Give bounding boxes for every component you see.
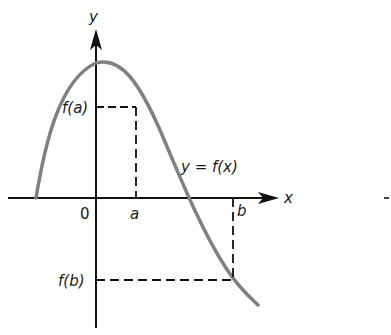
b-label: b (237, 202, 247, 220)
function-graph: y x 0 a b f(a) f(b) y = f(x) (0, 0, 391, 335)
origin-label: 0 (80, 205, 90, 223)
y-axis-label: y (88, 8, 99, 26)
a-label: a (130, 205, 139, 223)
curve-label: y = f(x) (180, 158, 238, 176)
x-axis-label: x (283, 189, 293, 207)
fa-label: f(a) (62, 99, 88, 117)
fb-label: f(b) (58, 272, 85, 290)
